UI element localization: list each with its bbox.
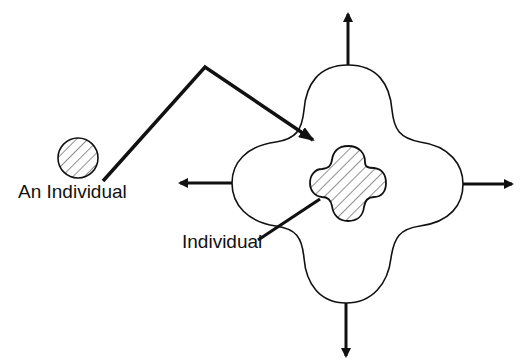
inner-individual bbox=[310, 146, 386, 221]
inner-label-leader bbox=[258, 199, 320, 240]
transition-arrow bbox=[103, 67, 313, 181]
outer-individual-label: An Individual bbox=[18, 181, 127, 203]
inner-individual-label: Individual bbox=[182, 231, 262, 253]
individual-circle bbox=[58, 138, 98, 178]
